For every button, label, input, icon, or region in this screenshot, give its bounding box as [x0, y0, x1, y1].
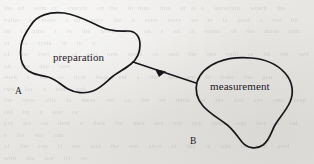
figure-container: the ad term cc rescuts on the in thus ti…	[0, 0, 314, 164]
figure-drawing	[0, 0, 314, 164]
measurement-blob-outline	[196, 58, 292, 148]
preparation-blob-outline	[20, 13, 140, 93]
